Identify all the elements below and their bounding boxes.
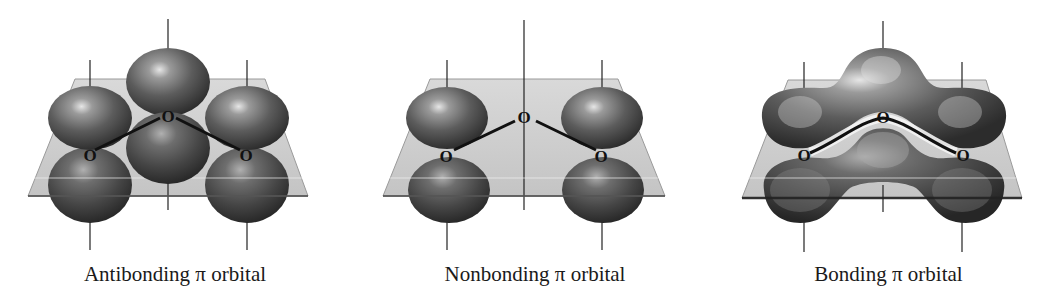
atom-o-right: O [239,146,252,165]
panel-antibonding: O O O Antibonding π orbital [0,0,350,306]
lobe-bottom-left [408,157,490,223]
panel-bonding: O O O Bonding π orbital [720,0,1057,306]
atom-o-center: O [161,107,174,126]
bonding-orbital-diagram: O O O [720,0,1057,260]
caption-bonding: Bonding π orbital [720,262,1057,287]
caption-antibonding: Antibonding π orbital [0,262,350,287]
lobe-bottom-right [562,157,644,223]
atom-o-center: O [517,108,530,127]
atom-o-left: O [797,146,810,165]
caption-nonbonding: Nonbonding π orbital [370,262,700,287]
lobe-top-center [126,48,210,116]
atom-o-left: O [439,147,452,166]
atom-o-left: O [83,146,96,165]
antibonding-orbital-diagram: O O O [0,0,350,260]
atom-o-right: O [956,146,969,165]
panel-nonbonding: O O O Nonbonding π orbital [370,0,700,306]
lobe-top-left [48,86,132,150]
nonbonding-orbital-diagram: O O O [370,0,700,260]
atom-o-right: O [594,147,607,166]
atom-o-center: O [876,108,889,127]
